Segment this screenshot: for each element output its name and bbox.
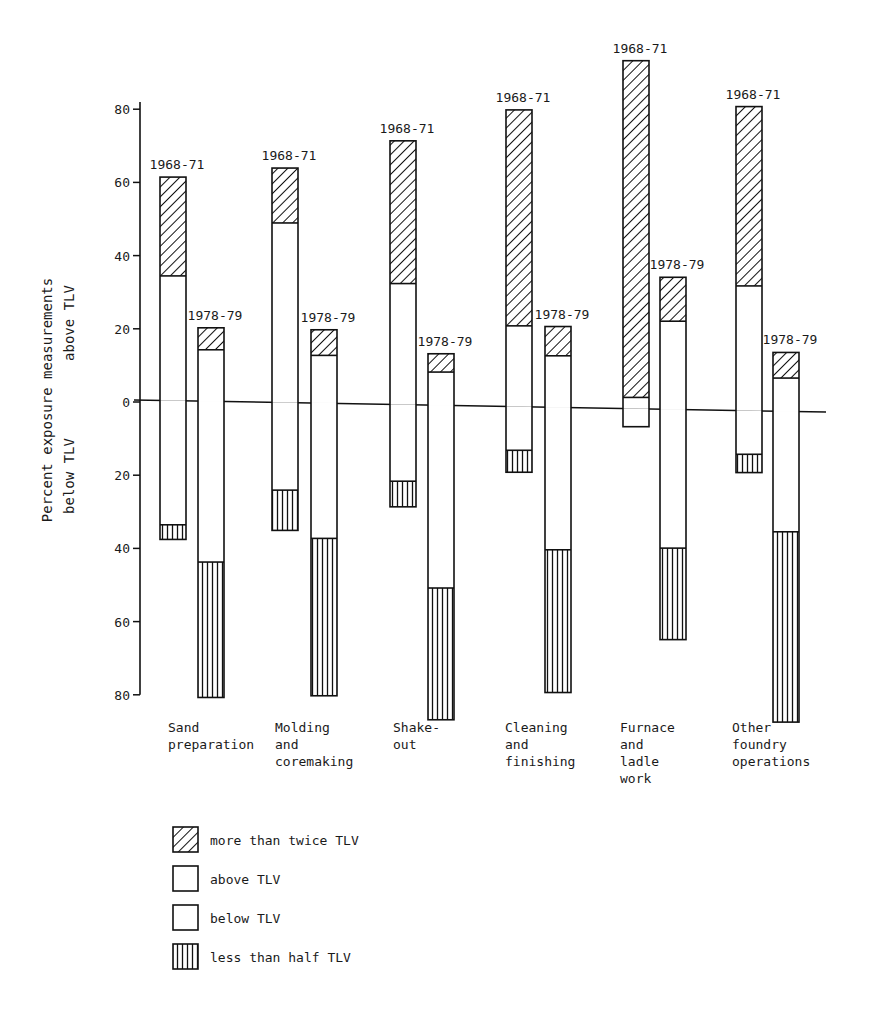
- segment-more-than-twice-tlv: [272, 168, 298, 223]
- segment-more-than-twice-tlv: [160, 177, 186, 276]
- bar-1978-79: 1978-79: [763, 332, 818, 722]
- y-axis-title-line1: Percent exposure measurements: [39, 278, 55, 522]
- segment-above-tlv: [506, 326, 532, 407]
- y-tick-label: 60: [114, 175, 130, 190]
- segment-more-than-twice-tlv: [660, 277, 686, 321]
- segment-less-than-half-tlv: [736, 454, 762, 472]
- y-tick-label: 0: [122, 395, 130, 410]
- category-label-line: ladle: [620, 754, 659, 769]
- period-label: 1978-79: [418, 334, 473, 349]
- segment-less-than-half-tlv: [660, 548, 686, 640]
- category-label-line: and: [620, 737, 643, 752]
- legend: more than twice TLVabove TLVbelow TLVles…: [173, 827, 359, 969]
- segment-less-than-half-tlv: [428, 588, 454, 720]
- legend-label: below TLV: [210, 911, 281, 926]
- bar-1978-79: 1978-79: [535, 307, 590, 693]
- segment-less-than-half-tlv: [272, 490, 298, 530]
- legend-swatch-twice: [173, 827, 198, 852]
- segment-above-tlv: [428, 372, 454, 405]
- period-label: 1978-79: [650, 257, 705, 272]
- category-label-line: work: [620, 771, 651, 786]
- segment-above-tlv: [272, 223, 298, 402]
- y-axis-title-above: above TLV: [61, 285, 77, 361]
- category-label-line: Furnace: [620, 720, 675, 735]
- y-axis-title-below: below TLV: [61, 438, 77, 514]
- y-tick-label: 40: [114, 249, 130, 264]
- category-label-line: Other: [732, 720, 771, 735]
- y-tick-label: 60: [114, 615, 130, 630]
- segment-less-than-half-tlv: [390, 481, 416, 507]
- category-label-line: finishing: [505, 754, 575, 769]
- bar-1978-79: 1978-79: [301, 310, 356, 696]
- category-label: Sandpreparation: [168, 720, 254, 752]
- category-label-line: and: [505, 737, 528, 752]
- segment-above-tlv: [623, 397, 649, 408]
- bar-1968-71: 1968-71: [496, 90, 551, 472]
- category-label-line: Shake-: [393, 720, 440, 735]
- segment-below-tlv: [545, 407, 571, 550]
- segment-more-than-twice-tlv: [773, 352, 799, 378]
- category-label-line: out: [393, 737, 416, 752]
- segment-below-tlv: [390, 404, 416, 481]
- segment-below-tlv: [660, 409, 686, 548]
- category-label-line: coremaking: [275, 754, 353, 769]
- segment-more-than-twice-tlv: [311, 330, 337, 356]
- period-label: 1978-79: [301, 310, 356, 325]
- segment-above-tlv: [736, 286, 762, 410]
- period-label: 1968-71: [262, 148, 317, 163]
- segment-above-tlv: [198, 350, 224, 401]
- period-label: 1968-71: [496, 90, 551, 105]
- bar-1978-79: 1978-79: [188, 308, 243, 698]
- bar-1978-79: 1978-79: [650, 257, 705, 639]
- legend-swatch-half: [173, 944, 198, 969]
- legend-label: above TLV: [210, 872, 281, 887]
- segment-below-tlv: [272, 402, 298, 490]
- period-label: 1968-71: [150, 157, 205, 172]
- legend-swatch-below: [173, 905, 198, 930]
- period-label: 1978-79: [535, 307, 590, 322]
- zero-line: [134, 400, 826, 412]
- segment-below-tlv: [623, 408, 649, 426]
- segment-above-tlv: [311, 355, 337, 403]
- segment-below-tlv: [736, 410, 762, 454]
- segment-below-tlv: [506, 406, 532, 450]
- y-tick-label: 80: [114, 688, 130, 703]
- category-label-line: operations: [732, 754, 810, 769]
- category-label-line: and: [275, 737, 298, 752]
- segment-less-than-half-tlv: [773, 532, 799, 722]
- period-label: 1968-71: [726, 87, 781, 102]
- segment-less-than-half-tlv: [545, 550, 571, 693]
- segment-more-than-twice-tlv: [390, 141, 416, 284]
- segment-more-than-twice-tlv: [736, 107, 762, 286]
- bar-1968-71: 1968-71: [380, 121, 435, 507]
- category-label: Cleaningandfinishing: [505, 720, 575, 769]
- y-axis-title: Percent exposure measurements above TLV …: [39, 278, 77, 522]
- period-label: 1978-79: [188, 308, 243, 323]
- legend-swatch-above: [173, 866, 198, 891]
- y-tick-label: 20: [114, 468, 130, 483]
- bar-1968-71: 1968-71: [150, 157, 205, 539]
- y-tick-label: 40: [114, 541, 130, 556]
- legend-label: more than twice TLV: [210, 833, 359, 848]
- segment-below-tlv: [428, 405, 454, 588]
- segment-below-tlv: [311, 403, 337, 538]
- category-label-line: preparation: [168, 737, 254, 752]
- y-tick-label: 80: [114, 102, 130, 117]
- segment-more-than-twice-tlv: [428, 354, 454, 372]
- category-label: Otherfoundryoperations: [732, 720, 810, 769]
- segment-above-tlv: [660, 321, 686, 409]
- segment-above-tlv: [773, 378, 799, 411]
- segment-less-than-half-tlv: [506, 450, 532, 472]
- segment-above-tlv: [390, 284, 416, 405]
- category-label-line: Cleaning: [505, 720, 568, 735]
- y-tick-label: 20: [114, 322, 130, 337]
- bar-1968-71: 1968-71: [726, 87, 781, 473]
- segment-above-tlv: [160, 276, 186, 400]
- zero-baseline: [134, 400, 826, 412]
- segment-below-tlv: [773, 411, 799, 532]
- bars-group: 1968-711978-791968-711978-791968-711978-…: [150, 41, 818, 722]
- period-label: 1968-71: [380, 121, 435, 136]
- segment-above-tlv: [545, 356, 571, 407]
- category-label: Furnaceandladlework: [620, 720, 675, 786]
- period-label: 1968-71: [613, 41, 668, 56]
